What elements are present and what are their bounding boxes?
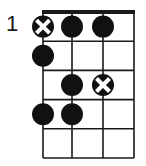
note-dot bbox=[61, 103, 83, 125]
note-dot bbox=[61, 16, 83, 38]
fretboard-diagram bbox=[0, 0, 146, 166]
note-dot bbox=[32, 45, 54, 67]
fretboard-grid bbox=[42, 10, 135, 158]
dot-circle bbox=[32, 103, 54, 125]
dot-circle bbox=[61, 103, 83, 125]
note-dot bbox=[92, 16, 114, 38]
root-marker bbox=[32, 16, 54, 38]
note-dot bbox=[32, 103, 54, 125]
dot-circle bbox=[61, 16, 83, 38]
nut bbox=[42, 10, 135, 14]
dot-circle bbox=[61, 74, 83, 96]
dot-circle bbox=[32, 45, 54, 67]
note-dot bbox=[61, 74, 83, 96]
root-marker bbox=[92, 74, 114, 96]
dot-circle bbox=[92, 16, 114, 38]
